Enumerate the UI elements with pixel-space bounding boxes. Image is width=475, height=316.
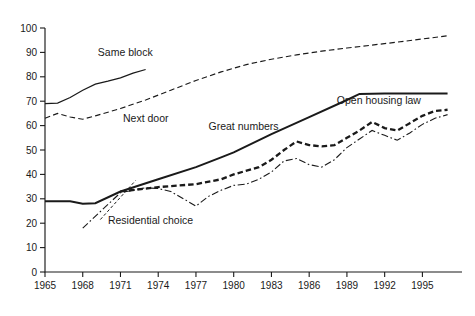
series-line-unlabeled-heavy-dashed [120,110,447,192]
series-labels: Same blockNext doorGreat numbersOpen hou… [98,46,421,226]
y-tick-label: 40 [26,169,38,180]
series-label-same-block: Same block [98,46,154,58]
axes-group [45,28,462,272]
x-tick-label: 1965 [34,280,57,291]
series-label-residential-choice: Residential choice [108,214,193,226]
y-tick-label: 30 [26,193,38,204]
chart-axes [45,28,462,272]
y-tick-label: 50 [26,145,38,156]
y-tick-label: 80 [26,71,38,82]
line-chart: 0102030405060708090100 19651968197119741… [0,0,475,316]
x-tick-label: 1980 [223,280,246,291]
x-tick-label: 1971 [109,280,132,291]
series-line-great-numbers [45,93,448,203]
x-axis-ticks: 1965196819711974197719801983198619891992… [34,272,434,291]
y-tick-label: 100 [20,23,37,34]
x-tick-label: 1983 [260,280,283,291]
x-tick-label: 1995 [411,280,434,291]
y-tick-label: 20 [26,218,38,229]
x-tick-label: 1989 [336,280,359,291]
series-label-next-door: Next door [123,112,169,124]
y-tick-label: 70 [26,96,38,107]
x-tick-label: 1986 [298,280,321,291]
series-line-same-block [45,69,146,103]
y-tick-label: 60 [26,120,38,131]
y-axis-ticks: 0102030405060708090100 [20,23,45,278]
chart-container: 0102030405060708090100 19651968197119741… [0,0,475,316]
series-label-great-numbers: Great numbers [209,120,279,132]
x-tick-label: 1974 [147,280,170,291]
series-label-open-housing-law: Open housing law [337,94,421,106]
x-tick-label: 1992 [374,280,397,291]
x-tick-label: 1977 [185,280,208,291]
x-tick-label: 1968 [72,280,95,291]
y-tick-label: 0 [31,267,37,278]
y-tick-label: 90 [26,47,38,58]
y-tick-label: 10 [26,242,38,253]
